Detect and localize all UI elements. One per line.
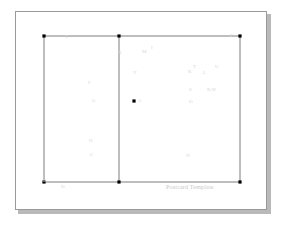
- point-label-p: P: [230, 33, 233, 38]
- point-label-g: G: [92, 98, 96, 103]
- point-label-d: D: [61, 184, 65, 189]
- template-caption: Postcard Template: [166, 184, 214, 190]
- bottom-middle-vertex[interactable]: [117, 180, 120, 183]
- top-right-vertex[interactable]: [238, 34, 241, 37]
- point-label-c: C: [90, 152, 93, 157]
- point-label-b: B: [43, 178, 46, 183]
- point-label-l: L: [203, 70, 206, 75]
- point-label-y: Y: [133, 70, 137, 75]
- point-label-m: M: [142, 49, 146, 54]
- geometry-lines: [16, 12, 268, 211]
- template-sheet: EPXMIYKTLUFSR,WGAOHCNBDPostcard Template: [15, 11, 267, 210]
- interior-point-vertex[interactable]: [132, 99, 135, 102]
- point-label-a: A: [138, 98, 142, 103]
- point-label-u: U: [215, 64, 219, 69]
- top-middle-vertex[interactable]: [117, 34, 120, 37]
- point-label-rw: R,W: [207, 87, 216, 92]
- point-label-o: O: [189, 99, 193, 104]
- point-label-h: H: [89, 138, 93, 143]
- point-label-f: F: [88, 80, 91, 85]
- point-label-x: X: [118, 50, 122, 55]
- top-left-vertex[interactable]: [42, 34, 45, 37]
- point-label-k: K: [188, 69, 192, 74]
- point-label-s: S: [189, 87, 192, 92]
- drawing-area[interactable]: EPXMIYKTLUFSR,WGAOHCNBDPostcard Template: [16, 12, 266, 209]
- bottom-right-vertex[interactable]: [238, 180, 241, 183]
- point-label-t: T: [193, 64, 196, 69]
- screenshot-canvas: EPXMIYKTLUFSR,WGAOHCNBDPostcard Template: [0, 0, 282, 226]
- point-label-n: N: [186, 153, 190, 158]
- point-label-e: E: [65, 34, 68, 39]
- point-label-i: I: [151, 45, 153, 50]
